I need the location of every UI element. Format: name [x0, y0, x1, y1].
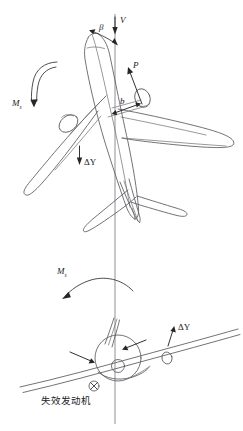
- front-fuselage-inner-circle: [112, 360, 125, 373]
- top-view-aircraft: [24, 33, 234, 231]
- velocity-label: V: [120, 15, 127, 25]
- lift-change-bottom-arrowhead: [170, 326, 175, 333]
- lift-change-top-arrowhead: [77, 158, 82, 166]
- moment-arm-group: [108, 100, 143, 117]
- yaw-moment-top-sublabel: s: [20, 104, 22, 110]
- right-wing-inner-line: [121, 117, 206, 135]
- aircraft-engine-failure-diagram: V β P b M s: [0, 0, 243, 431]
- roll-moment-bottom-group: [62, 278, 133, 299]
- front-view-aircraft: [20, 318, 240, 393]
- front-vertical-fin-right: [112, 320, 120, 347]
- figure-root: V β P b M s: [0, 0, 243, 431]
- lift-change-top-label: ΔY: [84, 157, 97, 167]
- thrust-arrow: [130, 71, 143, 104]
- roll-moment-bottom-sublabel: s: [65, 272, 67, 278]
- failed-engine-caption: 失效发动机: [41, 395, 91, 406]
- front-vertical-fin-left: [105, 318, 114, 344]
- front-wing-arrow-right: [126, 340, 146, 348]
- yaw-moment-top-arc-inner: [37, 67, 56, 101]
- right-horizontal-stabilizer: [131, 196, 187, 216]
- belly-fairing-line: [131, 366, 150, 378]
- lift-change-bottom-arrow: [168, 330, 173, 346]
- moment-arm-arrowhead-left: [112, 110, 118, 115]
- failed-engine-marker: [89, 381, 99, 391]
- moment-arm-lower-guide: [108, 107, 143, 117]
- thrust-label: P: [132, 60, 139, 70]
- wing-lower-line: [23, 335, 240, 393]
- velocity-arrow-group: [112, 17, 117, 35]
- lift-change-top-group: [77, 146, 82, 165]
- left-wing: [24, 96, 106, 195]
- moment-arm-label: b: [120, 96, 125, 106]
- moment-arm-arrowhead-right: [135, 102, 141, 107]
- roll-moment-bottom-arc: [67, 278, 134, 295]
- front-wing-arrow-left: [70, 352, 91, 361]
- yaw-moment-top-group: [30, 62, 57, 108]
- front-wing-arrow-left-group: [70, 352, 95, 363]
- lift-change-bottom-group: [168, 326, 176, 346]
- yaw-moment-top-arrowhead: [30, 99, 37, 107]
- roll-moment-bottom-arrowhead: [62, 292, 71, 299]
- sideslip-angle-label: β: [98, 22, 104, 32]
- lift-change-bottom-label: ΔY: [178, 322, 191, 332]
- velocity-arrowhead: [112, 27, 117, 35]
